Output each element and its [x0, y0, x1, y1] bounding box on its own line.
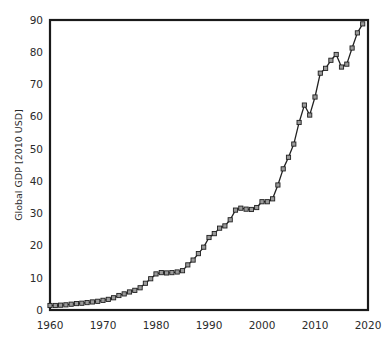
data-point-1997 [244, 207, 248, 211]
data-point-2001 [265, 200, 269, 204]
data-point-1999 [255, 205, 259, 209]
data-point-1990 [207, 235, 211, 239]
data-point-1991 [212, 232, 216, 236]
y-tick-label-80: 80 [30, 46, 43, 58]
data-point-1986 [186, 263, 190, 267]
data-point-2018 [355, 31, 359, 35]
data-point-2009 [308, 113, 312, 117]
data-point-1974 [122, 292, 126, 296]
x-tick-label-1980: 1980 [143, 319, 170, 331]
data-point-1987 [191, 258, 195, 262]
data-point-2006 [292, 142, 296, 146]
data-point-1975 [127, 290, 131, 294]
data-point-1988 [196, 252, 200, 256]
data-point-1994 [228, 218, 232, 222]
data-point-2016 [345, 62, 349, 66]
data-point-1977 [138, 286, 142, 290]
y-tick-label-40: 40 [30, 175, 43, 187]
y-tick-label-20: 20 [30, 239, 43, 251]
data-point-1979 [149, 277, 153, 281]
data-point-1981 [159, 271, 163, 275]
data-point-2003 [276, 183, 280, 187]
data-point-2014 [334, 52, 338, 56]
data-point-1971 [106, 297, 110, 301]
data-point-2017 [350, 46, 354, 50]
data-point-1996 [239, 206, 243, 210]
x-tick-label-2010: 2010 [302, 319, 329, 331]
data-point-1967 [85, 300, 89, 304]
data-point-1978 [143, 281, 147, 285]
x-tick-label-1970: 1970 [90, 319, 117, 331]
data-point-1961 [53, 303, 57, 307]
data-point-2010 [313, 95, 317, 99]
data-point-2004 [281, 167, 285, 171]
data-point-1982 [165, 271, 169, 275]
y-tick-label-10: 10 [30, 272, 43, 284]
data-point-1968 [90, 300, 94, 304]
y-axis-label: Global GDP [2010 USD] [13, 109, 24, 221]
x-tick-label-2000: 2000 [249, 319, 276, 331]
data-point-1998 [249, 207, 253, 211]
data-point-2002 [271, 197, 275, 201]
data-point-1962 [59, 303, 63, 307]
data-point-1965 [74, 301, 78, 305]
x-tick-label-1960: 1960 [37, 319, 64, 331]
chart-svg: 0102030405060708090 19601970198019902000… [0, 0, 390, 347]
data-point-1980 [154, 272, 158, 276]
data-point-1969 [96, 299, 100, 303]
data-point-1984 [175, 270, 179, 274]
data-point-1964 [69, 302, 73, 306]
data-point-1966 [80, 301, 84, 305]
y-tick-label-90: 90 [30, 14, 43, 26]
data-point-1995 [233, 208, 237, 212]
data-point-1983 [170, 271, 174, 275]
data-point-1963 [64, 303, 68, 307]
y-tick-label-30: 30 [30, 207, 43, 219]
data-point-1973 [117, 293, 121, 297]
data-point-2012 [324, 66, 328, 70]
data-point-2011 [318, 71, 322, 75]
y-tick-label-50: 50 [30, 143, 43, 155]
data-point-2005 [286, 155, 290, 159]
data-point-1970 [101, 298, 105, 302]
data-point-2007 [297, 120, 301, 124]
data-point-1985 [180, 269, 184, 273]
data-point-2013 [329, 58, 333, 62]
y-tick-label-70: 70 [30, 78, 43, 90]
data-point-1960 [48, 303, 52, 307]
x-tick-label-1990: 1990 [196, 319, 223, 331]
chart-figure: 0102030405060708090 19601970198019902000… [0, 0, 390, 347]
data-point-1993 [223, 224, 227, 228]
data-point-1976 [133, 288, 137, 292]
data-point-2015 [339, 65, 343, 69]
x-tick-label-2020: 2020 [355, 319, 382, 331]
data-point-1989 [202, 245, 206, 249]
data-point-1992 [218, 226, 222, 230]
y-tick-label-60: 60 [30, 110, 43, 122]
data-point-2019 [361, 22, 365, 26]
y-tick-label-0: 0 [36, 304, 43, 316]
plot-frame [50, 20, 368, 310]
data-point-2008 [302, 103, 306, 107]
data-point-1972 [112, 296, 116, 300]
data-point-2000 [260, 200, 264, 204]
